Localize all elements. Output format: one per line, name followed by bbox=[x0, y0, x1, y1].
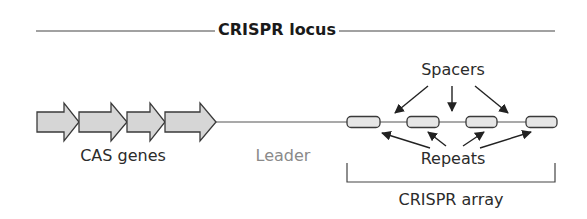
spacer-arrow-3 bbox=[475, 86, 508, 113]
repeat-4 bbox=[526, 117, 557, 128]
cas-gene-arrow-4 bbox=[165, 103, 216, 141]
crispr-array-label: CRISPR array bbox=[399, 192, 504, 208]
cas-gene-arrow-3 bbox=[127, 103, 165, 141]
repeats-label: Repeats bbox=[421, 151, 486, 167]
diagram-title: CRISPR locus bbox=[215, 22, 339, 38]
repeat-2 bbox=[407, 117, 439, 128]
cas-gene-arrow-2 bbox=[79, 103, 127, 141]
repeat-arrow-3 bbox=[463, 132, 484, 146]
repeat-1 bbox=[347, 117, 380, 128]
cas-genes-label: CAS genes bbox=[80, 148, 166, 164]
cas-genes bbox=[37, 103, 216, 141]
spacers-label: Spacers bbox=[421, 62, 485, 78]
repeat-arrow-4 bbox=[480, 132, 531, 148]
repeat-arrow-2 bbox=[428, 132, 446, 146]
leader-label: Leader bbox=[256, 148, 311, 164]
spacer-arrows bbox=[395, 86, 508, 113]
repeat-3 bbox=[466, 117, 497, 128]
repeat-arrow-1 bbox=[382, 133, 430, 148]
cas-gene-arrow-1 bbox=[37, 103, 79, 141]
spacer-arrow-1 bbox=[395, 86, 428, 113]
crispr-locus-diagram: CRISPR locus CAS genes Leader Spacers Re… bbox=[0, 0, 587, 219]
repeat-arrows bbox=[382, 132, 531, 148]
